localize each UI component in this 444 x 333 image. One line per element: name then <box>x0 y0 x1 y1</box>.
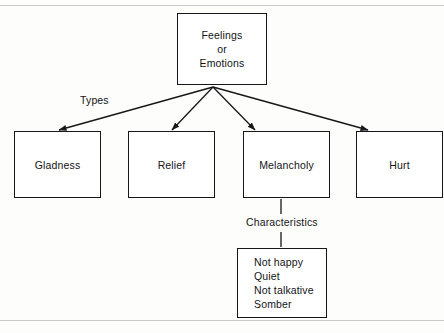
node-root-line-2: or <box>217 42 227 56</box>
node-relief[interactable]: Relief <box>128 131 215 198</box>
node-gladness-label: Gladness <box>35 158 81 172</box>
edge-label-characteristics: Characteristics <box>246 216 318 229</box>
node-hurt[interactable]: Hurt <box>356 131 443 198</box>
concept-map-diagram: Feelings or Emotions Types Gladness Reli… <box>0 0 444 333</box>
node-melancholy-characteristics[interactable]: Not happy Quiet Not talkative Somber <box>237 248 327 318</box>
edge-root-to-hurt <box>213 87 368 130</box>
node-relief-label: Relief <box>158 158 186 172</box>
node-feelings-or-emotions[interactable]: Feelings or Emotions <box>177 13 267 85</box>
node-melancholy-label: Melancholy <box>259 158 314 172</box>
characteristic-item-3: Not talkative <box>254 283 314 297</box>
node-gladness[interactable]: Gladness <box>14 131 101 198</box>
node-hurt-label: Hurt <box>389 158 409 172</box>
node-melancholy[interactable]: Melancholy <box>243 131 330 198</box>
characteristic-item-4: Somber <box>254 297 292 311</box>
edge-root-to-relief <box>172 87 213 130</box>
node-root-line-1: Feelings <box>202 28 243 42</box>
node-root-line-3: Emotions <box>200 56 245 70</box>
characteristic-item-2: Quiet <box>254 269 280 283</box>
characteristic-item-1: Not happy <box>254 255 303 269</box>
edge-label-types: Types <box>80 94 109 107</box>
